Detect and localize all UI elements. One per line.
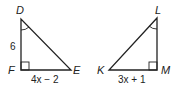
vertex-label-l: L (155, 4, 161, 16)
vertex-label-e: E (73, 64, 81, 76)
diagram-canvas: D F E 6 4x − 2 L K M 3x + 1 (0, 0, 174, 89)
triangle-lmk: L K M 3x + 1 (97, 4, 171, 85)
vertex-label-d: D (16, 4, 24, 16)
angle-arc-l (149, 26, 157, 29)
right-angle-mark-f (21, 62, 29, 70)
vertex-label-k: K (97, 64, 105, 76)
triangle-dfe: D F E 6 4x − 2 (8, 4, 81, 85)
right-angle-mark-m (149, 62, 157, 70)
side-label-km: 3x + 1 (118, 74, 146, 85)
vertex-label-f: F (8, 64, 16, 76)
side-label-df: 6 (10, 41, 16, 52)
side-label-fe: 4x − 2 (31, 74, 59, 85)
angle-arc-d (21, 27, 29, 30)
vertex-label-m: M (161, 64, 171, 76)
